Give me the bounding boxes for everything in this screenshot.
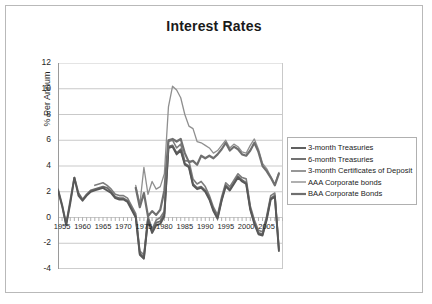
plot-area: % Per Annum Year -4-2024681012 195519601…	[58, 63, 283, 269]
legend-color-swatch	[291, 154, 306, 164]
series-line	[136, 139, 279, 216]
legend-color-swatch	[291, 177, 306, 187]
legend-item[interactable]: AAA Corporate bonds	[291, 177, 413, 189]
chart-legend: 3-month Treasuries 6-month Treasuries 3-…	[287, 137, 417, 205]
x-tick-label: 2005	[254, 222, 280, 231]
legend-color-swatch	[291, 143, 306, 153]
legend-item[interactable]: 3-month Treasuries	[291, 142, 413, 154]
legend-item-label: 3-month Treasuries	[308, 142, 373, 154]
y-tick-label: 12	[31, 57, 51, 67]
legend-color-swatch	[291, 166, 306, 176]
y-tick-label: 2	[31, 186, 51, 196]
y-tick-label: 0	[31, 212, 51, 222]
legend-item-label: 6-month Treasuries	[308, 154, 373, 166]
legend-item-label: BAA Corporate Bonds	[308, 188, 382, 200]
y-tick-label: -4	[31, 263, 51, 273]
y-tick-label: 8	[31, 109, 51, 119]
x-tick-marks	[58, 218, 283, 222]
chart-title: Interest Rates	[6, 18, 422, 34]
y-tick-label: 10	[31, 83, 51, 93]
data-series-layer	[58, 86, 279, 259]
legend-color-swatch	[291, 189, 306, 199]
chart-frame: Interest Rates % Per Annum Year -4-20246…	[5, 5, 423, 293]
chart-canvas	[58, 63, 283, 269]
legend-item-label: AAA Corporate bonds	[308, 177, 381, 189]
series-line	[136, 86, 279, 204]
legend-item[interactable]: 3-month Certificates of Deposit	[291, 165, 413, 177]
legend-item[interactable]: BAA Corporate Bonds	[291, 188, 413, 200]
y-tick-label: 6	[31, 134, 51, 144]
legend-item-label: 3-month Certificates of Deposit	[308, 165, 412, 177]
y-tick-label: -2	[31, 237, 51, 247]
y-tick-label: 4	[31, 160, 51, 170]
series-line	[58, 147, 279, 259]
legend-item[interactable]: 6-month Treasuries	[291, 154, 413, 166]
